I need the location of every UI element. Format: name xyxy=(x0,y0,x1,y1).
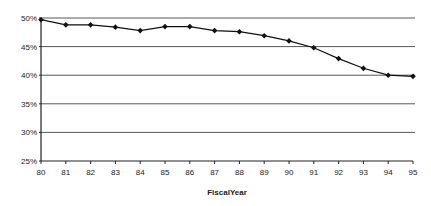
diamond-marker xyxy=(286,38,292,44)
x-tick-label: 90 xyxy=(285,168,294,177)
diamond-marker xyxy=(385,72,391,78)
data-series xyxy=(38,17,416,79)
x-tick-label: 84 xyxy=(136,168,145,177)
x-axis-title: FiscalYear xyxy=(207,188,247,197)
gridlines xyxy=(41,18,415,132)
y-tick-label: 25% xyxy=(21,157,37,166)
x-tick-label: 94 xyxy=(384,168,393,177)
x-tick-label: 80 xyxy=(37,168,46,177)
x-tick-label: 88 xyxy=(235,168,244,177)
y-tick-label: 40% xyxy=(21,71,37,80)
y-tick-label: 35% xyxy=(21,100,37,109)
diamond-marker xyxy=(237,29,243,35)
x-tick-label: 89 xyxy=(260,168,269,177)
x-tick-label: 85 xyxy=(161,168,170,177)
diamond-marker xyxy=(187,24,193,30)
diamond-marker xyxy=(212,28,218,34)
diamond-marker xyxy=(63,22,69,28)
diamond-marker xyxy=(162,24,168,30)
x-tick-label: 95 xyxy=(409,168,418,177)
diamond-marker xyxy=(311,45,317,51)
diamond-marker xyxy=(88,22,94,28)
y-axis: 25%30%35%40%45%50% xyxy=(21,14,41,166)
diamond-marker xyxy=(261,33,267,39)
series-line xyxy=(41,20,413,77)
line-chart: 25%30%35%40%45%50% 808182838485868788899… xyxy=(0,0,431,206)
x-tick-label: 91 xyxy=(309,168,318,177)
diamond-marker xyxy=(336,56,342,62)
x-tick-label: 92 xyxy=(334,168,343,177)
x-tick-label: 83 xyxy=(111,168,120,177)
x-tick-label: 87 xyxy=(210,168,219,177)
x-axis: 80818283848586878889909192939495 xyxy=(37,161,418,177)
diamond-marker xyxy=(361,66,367,72)
y-tick-label: 50% xyxy=(21,14,37,23)
diamond-marker xyxy=(113,24,119,30)
y-tick-label: 30% xyxy=(21,128,37,137)
x-tick-label: 81 xyxy=(61,168,70,177)
diamond-marker xyxy=(410,74,416,80)
y-tick-label: 45% xyxy=(21,43,37,52)
diamond-marker xyxy=(137,28,143,34)
x-tick-label: 93 xyxy=(359,168,368,177)
x-tick-label: 86 xyxy=(185,168,194,177)
x-tick-label: 82 xyxy=(86,168,95,177)
